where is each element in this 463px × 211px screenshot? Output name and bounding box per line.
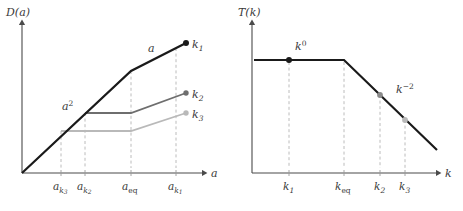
annotation-k-minus-two: k−2: [396, 82, 414, 96]
curve-transfer: [254, 60, 437, 150]
transfer-function-panel: T(k) k k1 keq k2 k3 k0: [238, 6, 452, 195]
annotation-a-squared: a2: [62, 99, 74, 113]
tick-label-a-k1: ak1: [168, 180, 183, 195]
tick-label-k-eq: keq: [335, 180, 351, 195]
curve-k3: [61, 113, 186, 131]
tick-label-k1: k1: [283, 180, 294, 195]
marker-k1: [286, 57, 292, 63]
right-x-axis-label: k: [445, 167, 452, 180]
right-y-axis-label: T(k): [238, 6, 261, 19]
endpoint-dot-k3: [183, 110, 188, 115]
tick-label-a-k2: ak2: [77, 180, 92, 195]
endpoint-label-k2: k2: [192, 88, 204, 103]
marker-k3: [402, 117, 408, 123]
marker-k2: [377, 92, 383, 98]
left-x-axis-label: a: [211, 167, 218, 180]
tick-label-k2: k2: [374, 180, 385, 195]
tick-label-k3: k3: [399, 180, 410, 195]
figure-root: D(a) a ak3 ak2 aeq ak1: [0, 0, 463, 211]
endpoint-label-k3: k3: [192, 108, 204, 123]
tick-label-a-k3: ak3: [53, 180, 68, 195]
figure-canvas: D(a) a ak3 ak2 aeq ak1: [0, 0, 463, 211]
endpoint-dot-k1: [183, 40, 189, 46]
endpoint-dot-k2: [183, 90, 188, 95]
curve-k1: [22, 43, 186, 173]
growth-function-panel: D(a) a ak3 ak2 aeq ak1: [5, 6, 218, 195]
tick-label-a-eq: aeq: [122, 180, 138, 195]
left-y-axis-label: D(a): [5, 6, 30, 19]
curve-k2: [85, 93, 186, 113]
annotation-a-linear: a: [148, 42, 155, 55]
annotation-k-zero: k0: [295, 39, 307, 53]
endpoint-label-k1: k1: [192, 38, 203, 53]
